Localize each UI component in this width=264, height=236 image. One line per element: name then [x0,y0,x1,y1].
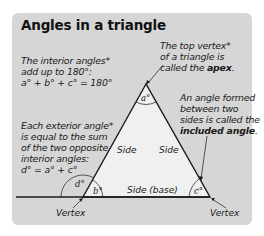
included-angle-pointer [201,136,207,179]
apex-pointer [148,65,163,83]
angle-b-label: b° [93,186,103,196]
side-left-label: Side [117,145,137,155]
vertex-left-label: Vertex [56,208,86,218]
vertex-right-label: Vertex [210,208,240,218]
apex-pointer-arrowhead [146,80,150,85]
side-right-label: Side [159,145,179,155]
side-base-label: Side (base) [127,185,178,195]
triangle-diagram: a° b° c° d° Side Side Side (base) Vertex… [0,0,264,236]
angle-d-label: d° [75,179,85,189]
vertex-right-pointer [212,199,226,208]
angle-a-label: a° [141,93,150,103]
angle-c-label: c° [194,186,203,196]
